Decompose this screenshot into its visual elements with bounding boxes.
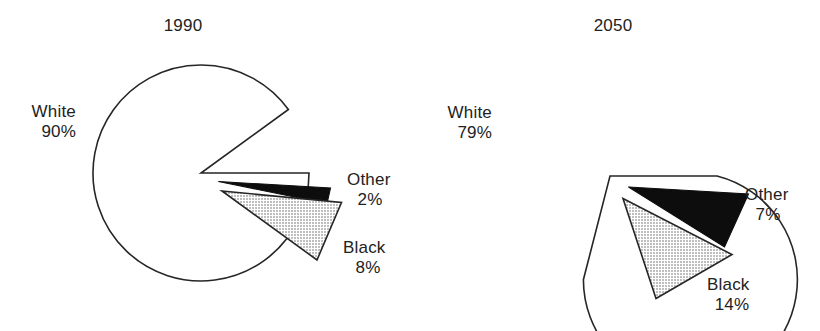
label-black-name-2050: Black — [707, 275, 750, 294]
label-other-pct-1990: 2% — [347, 190, 407, 210]
label-black-2050: Black 14% — [707, 275, 771, 315]
label-black-pct-2050: 14% — [707, 295, 771, 315]
label-white-1990: White 90% — [2, 102, 76, 142]
label-white-2050: White 79% — [418, 103, 492, 143]
label-white-pct-2050: 79% — [418, 123, 492, 143]
label-other-1990: Other 2% — [347, 170, 407, 210]
wedge-white-1990 — [93, 65, 309, 281]
label-other-name-2050: Other — [745, 185, 789, 204]
pie-svg-1990 — [0, 0, 410, 331]
pie-panel-2050: 2050 White 79% Other 7% Black — [410, 0, 820, 331]
label-black-1990: Black 8% — [343, 238, 407, 278]
label-other-2050: Other 7% — [745, 185, 805, 225]
label-black-name-1990: Black — [343, 238, 386, 257]
pie-panel-1990: 1990 White 90% Other 2% Black — [0, 0, 410, 331]
label-other-name-1990: Other — [347, 170, 391, 189]
label-white-name-1990: White — [32, 102, 76, 121]
label-black-pct-1990: 8% — [343, 258, 407, 278]
label-other-pct-2050: 7% — [745, 205, 805, 225]
pie-chart-figure: 1990 White 90% Other 2% Black — [0, 0, 820, 331]
label-white-name-2050: White — [448, 103, 492, 122]
label-white-pct-1990: 90% — [2, 122, 76, 142]
